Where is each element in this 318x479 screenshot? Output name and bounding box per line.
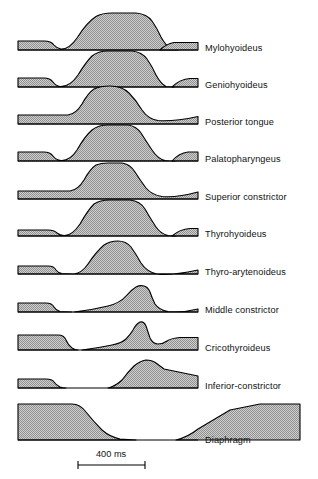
trace-segment <box>18 335 78 350</box>
trace-segment <box>18 379 66 388</box>
trace-segment <box>82 322 198 350</box>
trace-10 <box>18 360 198 388</box>
trace-segment <box>18 241 198 275</box>
trace-2 <box>18 51 198 87</box>
emg-figure: MylohyoideusGeniohyoideusPosterior tongu… <box>0 0 318 479</box>
trace-segment <box>18 86 198 124</box>
trace-6 <box>18 200 198 236</box>
trace-segment <box>18 13 178 50</box>
trace-segment <box>18 404 136 440</box>
trace-3 <box>18 86 198 124</box>
trace-segment <box>172 152 198 161</box>
trace-segment <box>18 200 176 236</box>
trace-label-2: Geniohyoideus <box>205 81 268 90</box>
trace-label-4: Palatopharyngeus <box>205 155 281 164</box>
trace-label-7: Thyro-arytenoideus <box>205 268 286 277</box>
trace-label-9: Cricothyroideus <box>205 344 270 353</box>
trace-shapes-group <box>18 13 300 440</box>
trace-7 <box>18 241 198 275</box>
trace-9 <box>18 322 198 350</box>
trace-label-3: Posterior tongue <box>205 118 274 127</box>
trace-label-8: Middle constrictor <box>205 306 279 315</box>
trace-11 <box>18 404 300 440</box>
trace-label-1: Mylohyoideus <box>205 44 262 53</box>
trace-label-5: Superior constrictor <box>205 193 287 202</box>
trace-1 <box>18 13 198 50</box>
trace-4 <box>18 125 198 161</box>
trace-segment <box>18 163 198 199</box>
trace-segment <box>74 286 198 312</box>
scale-bar <box>78 461 145 469</box>
trace-segment <box>18 303 72 312</box>
trace-segment <box>172 79 198 88</box>
scale-bar-label: 400 ms <box>96 450 126 459</box>
trace-5 <box>18 163 198 199</box>
trace-segment <box>108 360 198 388</box>
trace-label-11: Diaphragm <box>205 436 251 445</box>
trace-segment <box>18 125 175 161</box>
trace-label-10: Inferior-constrictor <box>205 382 281 391</box>
emg-traces-plot <box>0 0 318 479</box>
trace-segment <box>18 51 174 87</box>
trace-segment <box>172 229 198 237</box>
trace-label-6: Thyrohyoideus <box>205 230 267 239</box>
trace-8 <box>18 286 198 312</box>
